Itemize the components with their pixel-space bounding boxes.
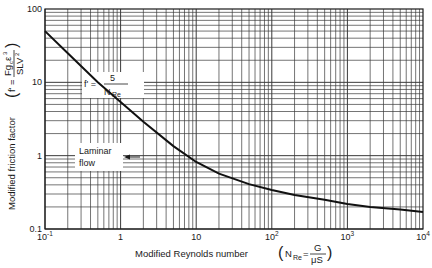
y-formula-close-paren: ) bbox=[3, 43, 20, 48]
y-tick-label: 10 bbox=[32, 77, 42, 87]
y-axis-ticks: 1001010.1 bbox=[27, 4, 42, 234]
y-formula-denominator: SLV bbox=[14, 57, 25, 75]
x-tick-label: 10-1 bbox=[37, 230, 53, 242]
equation-lhs: f' = bbox=[84, 79, 96, 89]
x-formula-denominator: μS bbox=[311, 254, 323, 265]
x-formula-lhs: N bbox=[285, 248, 292, 259]
x-formula-close-paren: ) bbox=[327, 244, 332, 261]
y-formula-denominator-superscript: 2 bbox=[14, 52, 20, 56]
x-tick-label: 10 bbox=[191, 232, 201, 242]
y-formula-numerator-tail: ε bbox=[2, 56, 13, 61]
y-axis-title: Modified friction factor bbox=[6, 117, 17, 210]
plot-frame bbox=[45, 9, 423, 229]
x-formula-numerator: G bbox=[314, 242, 321, 253]
y-formula-numerator: Fg bbox=[2, 65, 13, 76]
x-tick-label: 1 bbox=[118, 232, 123, 242]
y-tick-label: 1 bbox=[37, 151, 42, 161]
y-axis-label: Modified friction factor ( f' = Fg c ε 3… bbox=[2, 43, 25, 210]
x-tick-label: 102 bbox=[265, 230, 279, 242]
y-formula-numerator-superscript: 3 bbox=[2, 51, 8, 55]
x-formula-open-paren: ( bbox=[278, 244, 284, 261]
friction-factor-chart: f' = 5 N Re Laminar flow 1001010.1 10-11… bbox=[0, 0, 432, 268]
x-axis-ticks: 10-1110102103104 bbox=[37, 230, 430, 242]
x-axis-label: Modified Reynolds number ( N Re = G μS ) bbox=[135, 242, 332, 265]
x-formula-lhs-subscript: Re bbox=[293, 254, 302, 261]
x-axis-title: Modified Reynolds number bbox=[135, 248, 248, 259]
x-tick-label: 104 bbox=[416, 230, 430, 242]
x-formula-equals: = bbox=[303, 248, 309, 259]
x-tick-label: 103 bbox=[341, 230, 355, 242]
laminar-label-line1: Laminar bbox=[79, 146, 112, 156]
equation-numerator: 5 bbox=[110, 73, 115, 83]
laminar-label-line2: flow bbox=[79, 158, 96, 168]
y-tick-label: 100 bbox=[27, 4, 42, 14]
y-formula-lhs: f' = bbox=[6, 79, 17, 92]
plot-grid bbox=[45, 9, 423, 229]
